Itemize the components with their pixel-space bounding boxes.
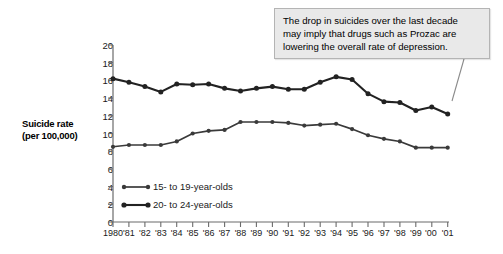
legend-label-20-24: 20- to 24-year-olds	[153, 199, 233, 210]
data-point	[366, 133, 370, 137]
suicide-rate-line-chart: Suicide rate (per 100,000) 20 18 16 14 1…	[0, 0, 503, 254]
data-point	[175, 139, 179, 143]
data-point	[111, 76, 116, 81]
annotation-line2: may imply that drugs such as Prozac are	[283, 27, 482, 40]
data-point	[334, 122, 338, 126]
data-point	[174, 81, 179, 86]
data-point	[397, 100, 402, 105]
annotation-line1: The drop in suicides over the last decad…	[283, 14, 482, 27]
data-point	[286, 87, 291, 92]
data-point	[222, 128, 226, 132]
data-point	[430, 146, 434, 150]
data-point	[366, 91, 371, 96]
data-point	[127, 143, 131, 147]
data-point	[254, 120, 258, 124]
data-point	[413, 108, 418, 113]
data-point	[445, 112, 450, 117]
data-point	[111, 145, 115, 149]
series-15-19	[111, 120, 450, 150]
data-point	[334, 74, 339, 79]
data-point	[222, 86, 227, 91]
series-20-24	[111, 74, 451, 116]
data-point	[350, 127, 354, 131]
data-point	[159, 143, 163, 147]
annotation-pointer-line	[452, 59, 464, 101]
data-point	[158, 89, 163, 94]
series-line	[113, 122, 448, 148]
data-point	[254, 86, 259, 91]
data-point	[238, 120, 242, 124]
legend-swatch-20-24	[121, 202, 150, 207]
data-point	[318, 123, 322, 127]
data-point	[206, 81, 211, 86]
data-point	[382, 137, 386, 141]
annotation-callout: The drop in suicides over the last decad…	[274, 8, 490, 59]
legend-label-15-19: 15- to 19-year-olds	[153, 181, 233, 192]
data-point	[286, 121, 290, 125]
data-point	[350, 77, 355, 82]
data-point	[238, 89, 243, 94]
data-point	[143, 143, 147, 147]
data-point	[446, 146, 450, 150]
series-line	[113, 77, 448, 114]
data-point	[398, 139, 402, 143]
data-point	[270, 120, 274, 124]
x-axis-ticks	[113, 222, 448, 227]
data-point	[207, 129, 211, 133]
legend-swatch-15-19	[122, 185, 150, 189]
data-point	[381, 99, 386, 104]
data-point	[429, 104, 434, 109]
data-point	[318, 80, 323, 85]
y-axis-ticks	[108, 45, 113, 222]
data-point	[302, 123, 306, 127]
data-point	[142, 84, 147, 89]
data-point	[302, 87, 307, 92]
data-point	[126, 80, 131, 85]
data-point	[191, 131, 195, 135]
annotation-line3: lowering the overall rate of depression.	[283, 40, 482, 53]
data-point	[414, 146, 418, 150]
series-layer	[111, 74, 451, 149]
data-point	[270, 84, 275, 89]
data-point	[190, 82, 195, 87]
